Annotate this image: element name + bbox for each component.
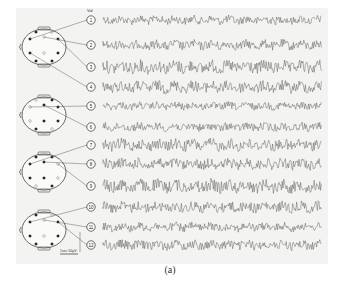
electrode xyxy=(35,99,38,102)
electrode xyxy=(51,185,54,188)
electrode xyxy=(35,60,38,63)
eeg-plot: 123456789101112Vol1sec 50µV xyxy=(16,8,328,264)
electrode xyxy=(57,235,60,238)
eeg-trace-4 xyxy=(103,80,321,94)
eeg-trace-8 xyxy=(103,158,321,171)
nose-icon xyxy=(20,112,22,118)
electrode xyxy=(35,128,38,131)
electrode xyxy=(51,243,54,246)
eeg-trace-11 xyxy=(103,222,321,232)
electrode xyxy=(35,243,38,246)
electrode xyxy=(29,177,32,180)
nose-icon xyxy=(20,227,22,233)
nose-icon xyxy=(20,44,22,50)
unit-label: Vol xyxy=(87,8,93,13)
eeg-trace-1 xyxy=(103,15,321,25)
electrode xyxy=(29,120,32,123)
electrode xyxy=(35,156,38,159)
eeg-trace-3 xyxy=(103,60,321,75)
eeg-trace-2 xyxy=(103,39,321,50)
electrode xyxy=(35,31,38,34)
electrode xyxy=(57,177,60,180)
electrode xyxy=(51,128,54,131)
eeg-trace-7 xyxy=(103,138,321,152)
figure-caption: (a) xyxy=(0,264,340,275)
electrode xyxy=(51,60,54,63)
eeg-trace-12 xyxy=(103,240,321,251)
eeg-figure: 123456789101112Vol1sec 50µV xyxy=(16,8,328,264)
electrode xyxy=(35,214,38,217)
electrode xyxy=(57,106,60,109)
nose-icon xyxy=(20,169,22,175)
eeg-trace-5 xyxy=(103,102,321,111)
head-outline-2 xyxy=(22,97,66,133)
electrode xyxy=(29,235,32,238)
electrode xyxy=(57,52,60,55)
electrode xyxy=(51,99,54,102)
eeg-trace-10 xyxy=(103,201,321,214)
scale-bar-label: 1sec 50µV xyxy=(60,249,77,253)
channel-number-10: 10 xyxy=(88,205,94,210)
eeg-trace-6 xyxy=(103,122,321,132)
channel-number-12: 12 xyxy=(88,243,94,248)
electrode xyxy=(57,120,60,123)
eeg-trace-9 xyxy=(103,178,321,193)
electrode xyxy=(43,120,46,123)
head-outline-4 xyxy=(22,212,66,248)
electrode xyxy=(43,177,46,180)
electrode xyxy=(35,185,38,188)
electrode xyxy=(43,52,46,55)
electrode xyxy=(43,235,46,238)
channel-number-11: 11 xyxy=(89,225,94,230)
